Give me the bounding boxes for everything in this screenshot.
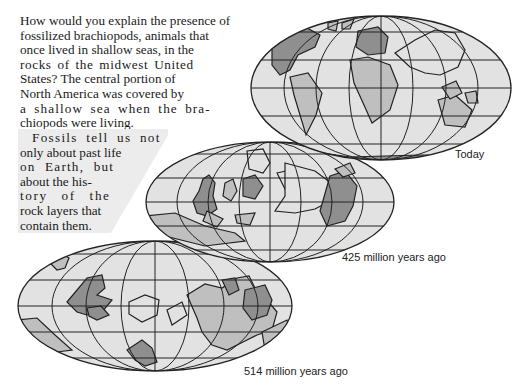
intro-line: States? The central portion of [20,72,250,87]
intro-line: fossilized brachiopods, animals that [20,29,250,44]
callout-line: contain them. [20,219,160,234]
callout-line: rock layers that [20,204,160,219]
intro-line: rocks of the midwest United [20,58,250,73]
caption-425mya: 425 million years ago [342,251,446,263]
intro-line: North America was covered by [20,87,250,102]
caption-514mya: 514 million years ago [244,365,348,377]
intro-line: a shallow sea when the bra- [20,102,250,117]
map-today [250,15,512,161]
callout-line: only about past life [20,146,160,161]
callout-line: about the his- [20,175,160,190]
callout-paragraph: Fossils tell us not only about past life… [20,131,160,233]
caption-today: Today [455,148,484,160]
intro-line: How would you explain the presence of [20,14,250,29]
callout-line: Fossils tell us not [20,131,160,146]
intro-paragraph: How would you explain the presence of fo… [20,14,250,131]
intro-line: chiopods were living. [20,116,250,131]
callout-line: tory of the [20,189,160,204]
callout-line: on Earth, but [20,160,160,175]
intro-line: once lived in shallow seas, in the [20,43,250,58]
world-map-today-icon [250,15,512,161]
